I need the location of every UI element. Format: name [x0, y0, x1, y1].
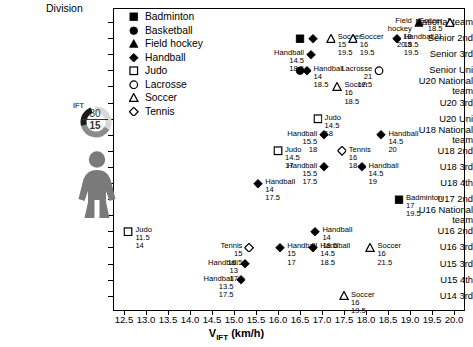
- filled-diamond-icon: [319, 158, 329, 176]
- data-point-label: Soccer 16 21.5: [377, 242, 401, 266]
- filled-circle-icon: [126, 26, 142, 36]
- open-diamond-icon: [126, 107, 142, 117]
- filled-square-icon: [394, 190, 404, 208]
- x-axis-title-sub: IFT: [216, 333, 228, 342]
- x-tick-mark: [410, 311, 411, 315]
- x-tick-mark: [322, 311, 323, 315]
- data-point-label: Judo 11.5 14: [135, 226, 151, 250]
- y-tick-mark: [108, 86, 113, 87]
- y-tick-label: U20 3rd: [365, 98, 473, 108]
- open-square-icon: [124, 222, 134, 240]
- legend-item-label: Judo: [145, 65, 167, 76]
- filled-diamond-icon: [275, 238, 285, 256]
- legend-item-label: Badminton: [145, 11, 194, 22]
- legend-item-label: Field hockey: [145, 38, 203, 49]
- open-triangle-icon: [326, 29, 336, 47]
- y-tick-mark: [108, 296, 113, 297]
- x-tick-mark: [344, 311, 345, 315]
- x-tick-mark: [300, 311, 301, 315]
- data-point-label: Soccer 16 18.5: [344, 81, 368, 105]
- x-tick-mark: [278, 311, 279, 315]
- y-tick-mark: [108, 54, 113, 55]
- data-point-label: Handball 13.5 17.5: [204, 275, 234, 299]
- x-tick-mark: [454, 311, 455, 315]
- legend-item-tennis[interactable]: Tennis: [126, 105, 203, 119]
- open-diamond-icon: [337, 142, 347, 160]
- female-figure-icon: [76, 150, 118, 218]
- y-tick-mark: [108, 70, 113, 71]
- filled-diamond-icon: [236, 271, 246, 289]
- filled-square-icon: [295, 29, 305, 47]
- legend-item-label: Soccer: [145, 92, 177, 103]
- open-triangle-icon: [366, 238, 376, 256]
- x-tick-mark: [212, 311, 213, 315]
- y-tick-mark: [108, 231, 113, 232]
- data-point-label: Soccer 16 19.5: [351, 291, 375, 315]
- female-head: [89, 151, 105, 167]
- ift-denominator: 15: [82, 120, 108, 131]
- data-point-label: Handball 14.5 20: [388, 130, 418, 154]
- open-circle-icon: [126, 80, 142, 90]
- x-tick-mark: [190, 311, 191, 315]
- open-triangle-icon: [445, 13, 455, 31]
- filled-diamond-icon: [392, 29, 402, 47]
- legend-item-basketball[interactable]: Basketball: [126, 24, 203, 38]
- y-tick-mark: [108, 22, 113, 23]
- filled-diamond-icon: [302, 61, 312, 79]
- legend: BadmintonBasketballField hockeyHandballJ…: [126, 10, 203, 118]
- x-tick-mark: [432, 311, 433, 315]
- y-tick-label: U16 2nd: [365, 226, 473, 236]
- legend-item-label: Lacrosse: [145, 79, 187, 90]
- filled-diamond-icon: [126, 53, 142, 63]
- x-tick-mark: [256, 311, 257, 315]
- x-axis-title-units: (km/h): [228, 327, 264, 339]
- chart-root: Division National teamSenior 2ndSenior 3…: [0, 0, 473, 347]
- legend-item-lacrosse[interactable]: Lacrosse: [126, 78, 203, 92]
- y-tick-mark: [108, 247, 113, 248]
- x-tick-mark: [124, 311, 125, 315]
- y-tick-mark: [108, 38, 113, 39]
- open-triangle-icon: [348, 29, 358, 47]
- y-tick-label: U20 National team: [365, 76, 473, 96]
- data-point-label: Soccer 16 19.5: [360, 33, 384, 57]
- open-triangle-icon: [333, 77, 343, 95]
- open-square-icon: [273, 142, 283, 160]
- data-point-label: Handball 14 17.5: [265, 178, 295, 202]
- y-tick-label: U15 4th: [365, 275, 473, 285]
- legend-item-field-hockey[interactable]: Field hockey: [126, 37, 203, 51]
- x-axis-title: VIFT (km/h): [0, 327, 473, 342]
- open-square-icon: [126, 66, 142, 76]
- filled-diamond-icon: [308, 238, 318, 256]
- y-tick-label: U14 3rd: [365, 291, 473, 301]
- y-axis-title: Division: [46, 2, 83, 14]
- filled-diamond-icon: [253, 174, 263, 192]
- data-point-label: Handball 14.5 19: [369, 162, 399, 186]
- legend-item-label: Handball: [145, 52, 186, 63]
- open-circle-icon: [374, 61, 384, 79]
- filled-triangle-icon: [126, 39, 142, 49]
- filled-diamond-icon: [357, 158, 367, 176]
- y-tick-label: U20 Uni: [365, 114, 473, 124]
- x-tick-mark: [234, 311, 235, 315]
- legend-item-handball[interactable]: Handball: [126, 51, 203, 65]
- open-triangle-icon: [126, 93, 142, 103]
- open-triangle-icon: [339, 287, 349, 305]
- ift-value: 30 15: [82, 108, 108, 131]
- legend-item-label: Tennis: [145, 106, 175, 117]
- x-tick-mark: [146, 311, 147, 315]
- y-tick-mark: [108, 264, 113, 265]
- filled-diamond-icon: [377, 126, 387, 144]
- x-tick-mark: [168, 311, 169, 315]
- legend-item-label: Basketball: [145, 25, 193, 36]
- legend-item-judo[interactable]: Judo: [126, 64, 203, 78]
- female-body: [79, 170, 116, 218]
- ift-numerator: 30: [82, 108, 108, 120]
- legend-item-badminton[interactable]: Badminton: [126, 10, 203, 24]
- data-point-label: Handball 18.5 19.5: [404, 33, 434, 57]
- y-tick-label: U18 2nd: [365, 146, 473, 156]
- legend-item-soccer[interactable]: Soccer: [126, 91, 203, 105]
- data-point-label: Badminton 17 19.5: [406, 194, 442, 218]
- x-tick-label: 20.0: [434, 314, 473, 325]
- y-tick-mark: [108, 280, 113, 281]
- data-point-label: Handball 14.5 18.5: [320, 242, 350, 266]
